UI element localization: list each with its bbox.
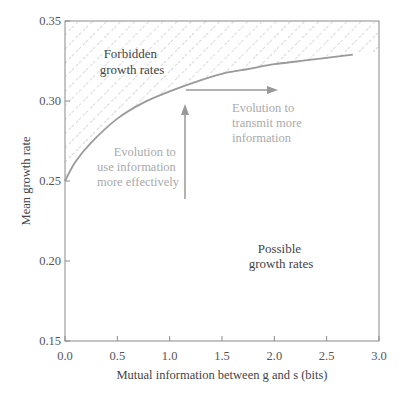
y-tick-label: 0.25: [39, 174, 61, 188]
chart: 0.00.51.01.52.02.53.0 0.150.200.250.300.…: [0, 0, 405, 400]
x-axis-label: Mutual information between g and s (bits…: [116, 368, 327, 382]
y-tick-label: 0.15: [39, 334, 61, 348]
y-tick-label: 0.20: [39, 254, 61, 268]
x-tick-label: 2.0: [267, 349, 283, 363]
x-tick-label: 1.0: [162, 349, 178, 363]
arrow-horizontal-icon: [186, 86, 278, 94]
x-tick-label: 0.5: [110, 349, 126, 363]
x-tick-label: 0.0: [57, 349, 73, 363]
x-axis-ticks: 0.00.51.01.52.02.53.0: [57, 336, 387, 363]
x-tick-label: 3.0: [371, 349, 387, 363]
use-information-label: Evolution to use information more effect…: [97, 145, 180, 189]
forbidden-label: Forbidden growth rates: [100, 46, 165, 77]
x-tick-label: 2.5: [319, 349, 335, 363]
y-tick-label: 0.35: [39, 14, 61, 28]
forbidden-region: [65, 21, 379, 181]
x-tick-label: 1.5: [214, 349, 230, 363]
arrow-vertical-icon: [181, 104, 189, 199]
transmit-information-label: Evolution to transmit more information: [232, 101, 305, 145]
y-tick-label: 0.30: [39, 94, 61, 108]
possible-label: Possible growth rates: [249, 241, 314, 271]
y-axis-label: Mean growth rate: [19, 136, 33, 225]
